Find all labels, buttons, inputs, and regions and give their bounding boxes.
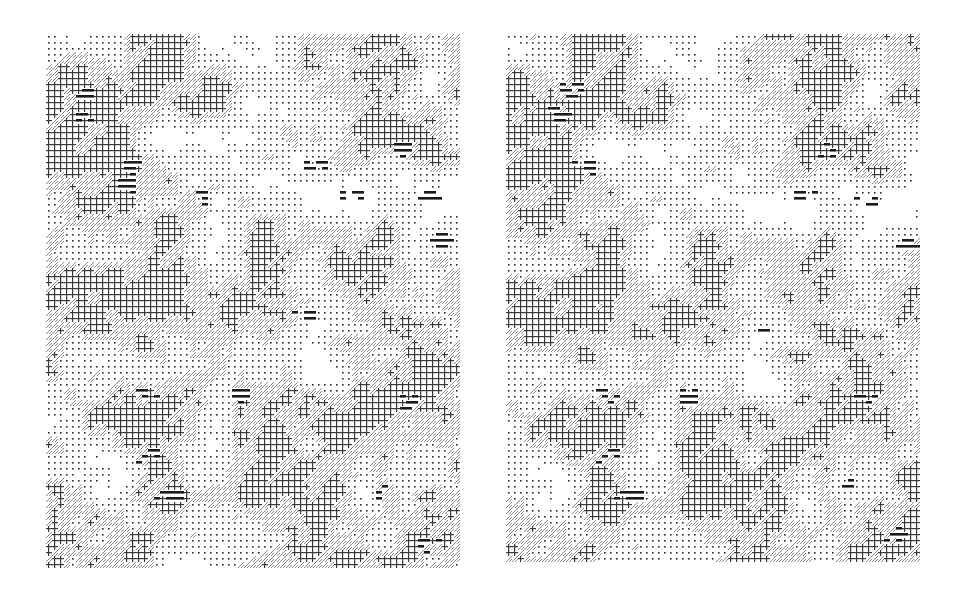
right-texture-canvas xyxy=(506,34,924,566)
left-texture-image xyxy=(46,34,464,568)
left-texture-canvas xyxy=(46,34,464,568)
right-texture-image xyxy=(506,34,924,566)
